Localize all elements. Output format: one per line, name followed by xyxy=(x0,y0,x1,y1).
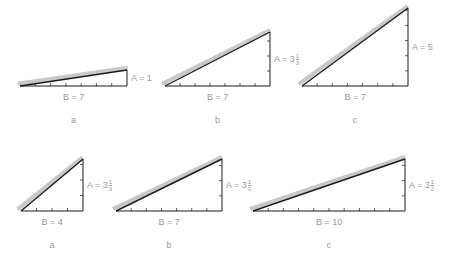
triangle-caption: a xyxy=(71,115,76,125)
height-label: A = 5 xyxy=(412,42,433,52)
triangle-caption: a xyxy=(50,240,55,250)
triangle-bottom-row-a xyxy=(18,157,83,211)
fraction-denominator: 3 xyxy=(109,186,112,192)
triangle-caption: c xyxy=(353,115,358,125)
height-label-value: A = 3 xyxy=(226,179,247,189)
base-label: B = 7 xyxy=(207,92,228,102)
hypotenuse-line xyxy=(21,159,83,211)
triangle-bottom-row-c xyxy=(250,157,405,211)
height-label-value: A = 5 xyxy=(412,42,433,52)
hypotenuse-line xyxy=(116,159,222,211)
base-label: B = 7 xyxy=(345,92,366,102)
triangle-caption: b xyxy=(167,240,172,250)
hypotenuse-shadow xyxy=(18,68,128,84)
fraction-numerator: 1 xyxy=(109,179,112,186)
hypotenuse-shadow xyxy=(250,157,405,209)
fraction-numerator: 1 xyxy=(248,179,251,186)
base-label: B = 4 xyxy=(42,217,63,227)
fraction-denominator: 2 xyxy=(431,186,434,192)
height-label-fraction: 12 xyxy=(431,179,434,192)
hypotenuse-shadow xyxy=(18,157,83,209)
triangle-top-row-a xyxy=(18,68,128,86)
hypotenuse-shadow xyxy=(299,6,408,84)
triangle-slope-diagram: B = 7A = 1aB = 7A = 313bB = 7A = 5cB = 4… xyxy=(0,0,460,266)
height-label: A = 313 xyxy=(226,179,251,192)
hypotenuse-line xyxy=(165,32,270,86)
height-label-value: A = 3 xyxy=(409,179,430,189)
triangle-top-row-b xyxy=(162,30,270,86)
fraction-denominator: 3 xyxy=(248,186,251,192)
height-label: A = 313 xyxy=(274,53,299,66)
triangle-top-row-c xyxy=(299,6,408,86)
height-label: A = 1 xyxy=(131,73,152,83)
height-label: A = 312 xyxy=(409,179,434,192)
base-label: B = 10 xyxy=(316,217,342,227)
height-label-fraction: 13 xyxy=(296,53,299,66)
height-label-fraction: 13 xyxy=(109,179,112,192)
base-label: B = 7 xyxy=(63,92,84,102)
hypotenuse-line xyxy=(302,8,408,86)
height-label-fraction: 13 xyxy=(248,179,251,192)
triangle-bottom-row-b xyxy=(113,157,222,211)
height-label-value: A = 1 xyxy=(131,73,152,83)
triangle-caption: c xyxy=(327,240,332,250)
hypotenuse-line xyxy=(20,70,127,86)
height-label: A = 313 xyxy=(87,179,112,192)
fraction-numerator: 1 xyxy=(431,179,434,186)
hypotenuse-line xyxy=(253,159,405,211)
hypotenuse-shadow xyxy=(162,30,270,84)
triangle-caption: b xyxy=(215,115,220,125)
diagram-canvas xyxy=(0,0,460,266)
height-label-value: A = 3 xyxy=(87,179,108,189)
height-label-value: A = 3 xyxy=(274,53,295,63)
base-label: B = 7 xyxy=(159,217,180,227)
hypotenuse-shadow xyxy=(113,157,222,209)
fraction-numerator: 1 xyxy=(296,53,299,60)
fraction-denominator: 3 xyxy=(296,60,299,66)
